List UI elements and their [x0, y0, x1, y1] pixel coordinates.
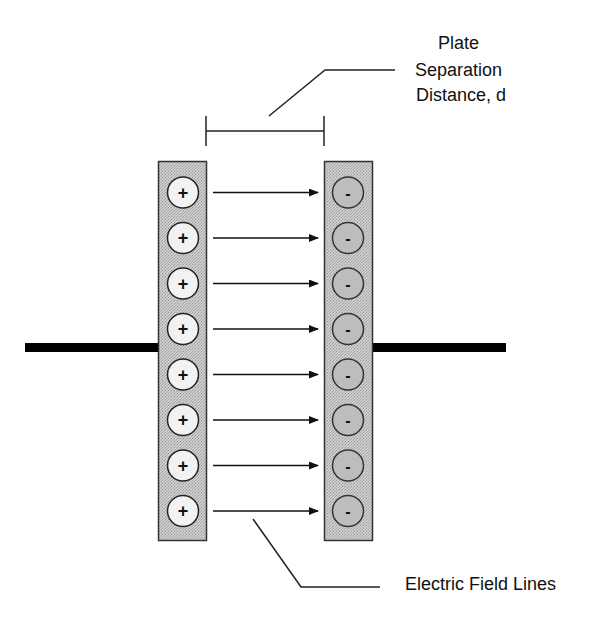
- plus-sign: +: [178, 501, 189, 521]
- negative-plate: [325, 162, 373, 541]
- minus-sign: -: [345, 503, 350, 520]
- plus-sign: +: [178, 183, 189, 203]
- plate-separation-label-line-3: Distance, d: [416, 85, 506, 105]
- positive-plate: [159, 162, 207, 541]
- minus-sign: -: [345, 321, 350, 338]
- separation-leader-line: [269, 70, 395, 116]
- plate-separation-label-line-2: Separation: [415, 60, 502, 80]
- electric-field-lines-label: Electric Field Lines: [405, 574, 556, 594]
- minus-sign: -: [345, 185, 350, 202]
- left-wire: [25, 343, 159, 352]
- capacitor-diagram: +-+-+-+-+-+-+-+- Plate Separation Distan…: [0, 0, 616, 621]
- minus-sign: -: [345, 367, 350, 384]
- minus-sign: -: [345, 412, 350, 429]
- plus-sign: +: [178, 410, 189, 430]
- minus-sign: -: [345, 458, 350, 475]
- plate-separation-label-line-1: Plate: [438, 33, 479, 53]
- plate-separation-label: Plate Separation Distance, d: [415, 33, 507, 105]
- plus-sign: +: [178, 365, 189, 385]
- plus-sign: +: [178, 228, 189, 248]
- separation-bracket: [206, 116, 324, 146]
- plus-sign: +: [178, 456, 189, 476]
- plus-sign: +: [178, 319, 189, 339]
- minus-sign: -: [345, 230, 350, 247]
- right-wire: [372, 343, 506, 352]
- plus-sign: +: [178, 274, 189, 294]
- minus-sign: -: [345, 276, 350, 293]
